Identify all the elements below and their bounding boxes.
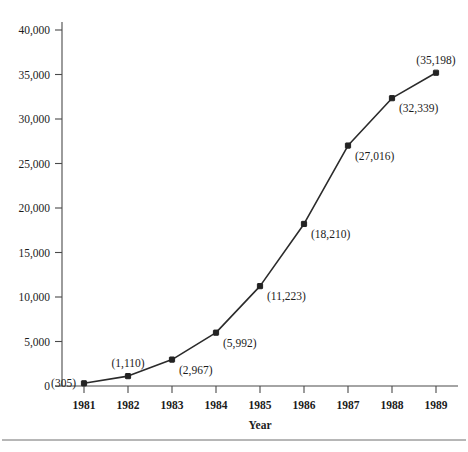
x-tick-label-1981: 1981 xyxy=(73,399,96,411)
y-tick-label-35000: 35,000 xyxy=(18,69,50,82)
y-tick-label-15000: 15,000 xyxy=(18,247,50,260)
data-point-1981 xyxy=(81,381,86,386)
data-label-1981: (305) xyxy=(51,377,76,390)
y-tick-label-30000: 30,000 xyxy=(18,113,50,126)
data-point-1982 xyxy=(125,374,130,379)
y-tick-label-0: 0 xyxy=(44,380,50,392)
x-tick-label-1989: 1989 xyxy=(425,399,448,411)
data-point-1986 xyxy=(301,221,306,226)
data-label-1989: (35,198) xyxy=(416,54,455,67)
data-point-1987 xyxy=(345,143,350,148)
data-label-1983: (2,967) xyxy=(179,364,213,377)
data-point-1983 xyxy=(169,357,174,362)
data-label-1984: (5,992) xyxy=(223,337,257,350)
data-point-1985 xyxy=(257,284,262,289)
line-chart: 05,00010,00015,00020,00025,00030,00035,0… xyxy=(0,0,468,452)
x-tick-label-1984: 1984 xyxy=(205,399,228,411)
data-point-1989 xyxy=(433,70,438,75)
x-tick-label-1983: 1983 xyxy=(161,399,184,411)
y-axis-tick-labels: 05,00010,00015,00020,00025,00030,00035,0… xyxy=(18,24,50,392)
x-axis-tick-labels: 198119821983198419851986198719881989 xyxy=(73,399,448,411)
y-tick-label-5000: 5,000 xyxy=(24,336,50,349)
x-tick-label-1986: 1986 xyxy=(293,399,316,411)
data-label-1988: (32,339) xyxy=(399,102,438,115)
x-tick-label-1982: 1982 xyxy=(117,399,140,411)
x-tick-label-1985: 1985 xyxy=(249,399,272,411)
x-tick-label-1988: 1988 xyxy=(381,399,404,411)
y-tick-label-20000: 20,000 xyxy=(18,202,50,215)
data-label-1987: (27,016) xyxy=(355,150,394,163)
x-axis-title: Year xyxy=(249,419,272,431)
data-label-1982: (1,110) xyxy=(111,357,144,370)
x-tick-label-1987: 1987 xyxy=(337,399,360,411)
y-tick-label-25000: 25,000 xyxy=(18,158,50,171)
data-label-1985: (11,223) xyxy=(267,290,306,303)
y-tick-label-10000: 10,000 xyxy=(18,291,50,304)
y-tick-label-40000: 40,000 xyxy=(18,24,50,37)
data-point-1988 xyxy=(389,96,394,101)
chart-figure: 05,00010,00015,00020,00025,00030,00035,0… xyxy=(0,0,468,452)
data-point-1984 xyxy=(213,330,218,335)
data-label-1986: (18,210) xyxy=(311,228,350,241)
